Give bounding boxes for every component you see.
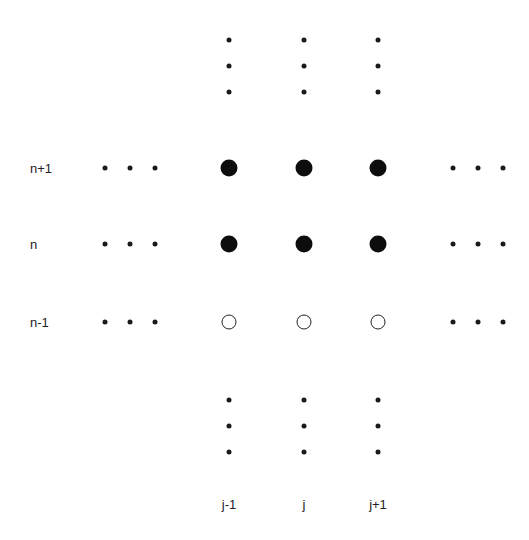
open-node-icon: [222, 315, 237, 330]
ellipsis-dot-icon: [376, 90, 381, 95]
column-label: j-1: [222, 498, 236, 511]
ellipsis-dot-icon: [476, 320, 481, 325]
ellipsis-dot-icon: [451, 320, 456, 325]
ellipsis-dot-icon: [227, 450, 232, 455]
ellipsis-dot-icon: [376, 398, 381, 403]
ellipsis-dot-icon: [103, 242, 108, 247]
open-node-icon: [297, 315, 312, 330]
filled-node-icon: [221, 236, 238, 253]
ellipsis-dot-icon: [103, 320, 108, 325]
ellipsis-dot-icon: [128, 320, 133, 325]
ellipsis-dot-icon: [302, 424, 307, 429]
ellipsis-dot-icon: [476, 242, 481, 247]
ellipsis-dot-icon: [501, 242, 506, 247]
ellipsis-dot-icon: [227, 398, 232, 403]
ellipsis-dot-icon: [128, 242, 133, 247]
ellipsis-dot-icon: [302, 90, 307, 95]
ellipsis-dot-icon: [476, 166, 481, 171]
filled-node-icon: [296, 160, 313, 177]
ellipsis-dot-icon: [302, 450, 307, 455]
ellipsis-dot-icon: [501, 320, 506, 325]
column-label: j+1: [369, 498, 387, 511]
ellipsis-dot-icon: [128, 166, 133, 171]
ellipsis-dot-icon: [153, 320, 158, 325]
ellipsis-dot-icon: [227, 64, 232, 69]
filled-node-icon: [296, 236, 313, 253]
ellipsis-dot-icon: [376, 424, 381, 429]
ellipsis-dot-icon: [227, 38, 232, 43]
ellipsis-dot-icon: [153, 242, 158, 247]
ellipsis-dot-icon: [376, 64, 381, 69]
ellipsis-dot-icon: [302, 38, 307, 43]
filled-node-icon: [370, 160, 387, 177]
ellipsis-dot-icon: [376, 38, 381, 43]
column-label: j: [303, 498, 306, 511]
ellipsis-dot-icon: [103, 166, 108, 171]
row-label: n: [30, 238, 37, 251]
row-label: n-1: [30, 316, 49, 329]
open-node-icon: [371, 315, 386, 330]
row-label: n+1: [30, 162, 52, 175]
filled-node-icon: [370, 236, 387, 253]
ellipsis-dot-icon: [376, 450, 381, 455]
ellipsis-dot-icon: [451, 166, 456, 171]
ellipsis-dot-icon: [227, 90, 232, 95]
ellipsis-dot-icon: [302, 64, 307, 69]
filled-node-icon: [221, 160, 238, 177]
ellipsis-dot-icon: [302, 398, 307, 403]
ellipsis-dot-icon: [227, 424, 232, 429]
ellipsis-dot-icon: [153, 166, 158, 171]
ellipsis-dot-icon: [501, 166, 506, 171]
ellipsis-dot-icon: [451, 242, 456, 247]
